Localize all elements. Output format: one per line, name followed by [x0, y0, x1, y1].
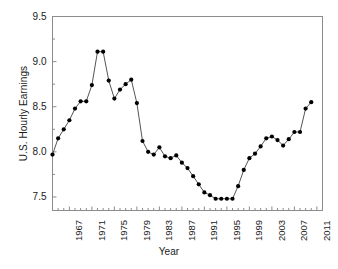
- data-point-marker: [135, 101, 139, 105]
- data-point-marker: [62, 127, 66, 131]
- x-tick-label: 2011: [321, 220, 332, 240]
- data-point-marker: [202, 190, 206, 194]
- data-point-marker: [225, 197, 229, 201]
- y-tick-label: 7.5: [21, 191, 47, 202]
- y-axis-ticks: [53, 17, 57, 197]
- x-tick-label: 1987: [186, 219, 197, 240]
- y-axis-title: U.S. Hourly Earnings: [18, 44, 29, 184]
- data-point-marker: [270, 134, 274, 138]
- data-point-marker: [163, 154, 167, 158]
- data-point-marker: [124, 82, 128, 86]
- plot-frame: [53, 17, 323, 211]
- x-tick-label: 1979: [141, 219, 152, 240]
- data-point-marker: [157, 145, 161, 149]
- data-point-marker: [79, 99, 83, 103]
- data-point-marker: [287, 137, 291, 141]
- data-point-marker: [304, 106, 308, 110]
- data-point-marker: [253, 152, 257, 156]
- data-point-marker: [101, 50, 105, 54]
- x-tick-label: 1983: [163, 219, 174, 240]
- x-tick-label: 2007: [298, 219, 309, 240]
- data-point-marker: [275, 138, 279, 142]
- data-point-marker: [174, 153, 178, 157]
- data-point-marker: [146, 150, 150, 154]
- data-point-marker: [140, 139, 144, 143]
- chart-container: 9.59.08.58.07.5 196719711975197919831987…: [0, 0, 338, 269]
- data-point-marker: [242, 168, 246, 172]
- x-tick-label: 1999: [253, 219, 264, 240]
- data-point-marker: [197, 182, 201, 186]
- data-point-marker: [56, 136, 60, 140]
- data-point-marker: [118, 87, 122, 91]
- data-point-marker: [67, 118, 71, 122]
- data-point-marker: [309, 100, 313, 104]
- data-point-marker: [259, 144, 263, 148]
- x-axis-ticks: [53, 207, 323, 211]
- data-point-marker: [129, 78, 133, 82]
- y-tick-label: 9.5: [21, 11, 47, 22]
- data-point-marker: [185, 166, 189, 170]
- data-point-markers: [50, 50, 313, 201]
- x-tick-label: 1991: [208, 219, 219, 240]
- data-point-marker: [90, 83, 94, 87]
- data-point-marker: [264, 136, 268, 140]
- data-point-marker: [292, 130, 296, 134]
- data-point-marker: [191, 174, 195, 178]
- x-tick-label: 1967: [73, 219, 84, 240]
- data-point-marker: [84, 99, 88, 103]
- x-tick-label: 1975: [118, 219, 129, 240]
- x-axis-title: Year: [0, 246, 338, 257]
- x-tick-label: 2003: [276, 219, 287, 240]
- data-point-marker: [281, 143, 285, 147]
- data-point-marker: [214, 197, 218, 201]
- plot-frame-rect: [53, 17, 323, 211]
- data-point-marker: [50, 152, 54, 156]
- data-point-marker: [95, 50, 99, 54]
- data-point-marker: [230, 197, 234, 201]
- data-point-marker: [219, 197, 223, 201]
- data-point-marker: [152, 152, 156, 156]
- x-tick-label: 1971: [96, 219, 107, 240]
- data-point-marker: [112, 97, 116, 101]
- data-point-marker: [180, 161, 184, 165]
- data-series-line: [53, 52, 312, 199]
- data-point-marker: [208, 193, 212, 197]
- data-point-marker: [73, 106, 77, 110]
- data-point-marker: [236, 184, 240, 188]
- series-polyline: [53, 52, 312, 199]
- data-point-marker: [169, 156, 173, 160]
- x-tick-label: 1995: [231, 219, 242, 240]
- data-point-marker: [247, 156, 251, 160]
- data-point-marker: [298, 130, 302, 134]
- data-point-marker: [107, 78, 111, 82]
